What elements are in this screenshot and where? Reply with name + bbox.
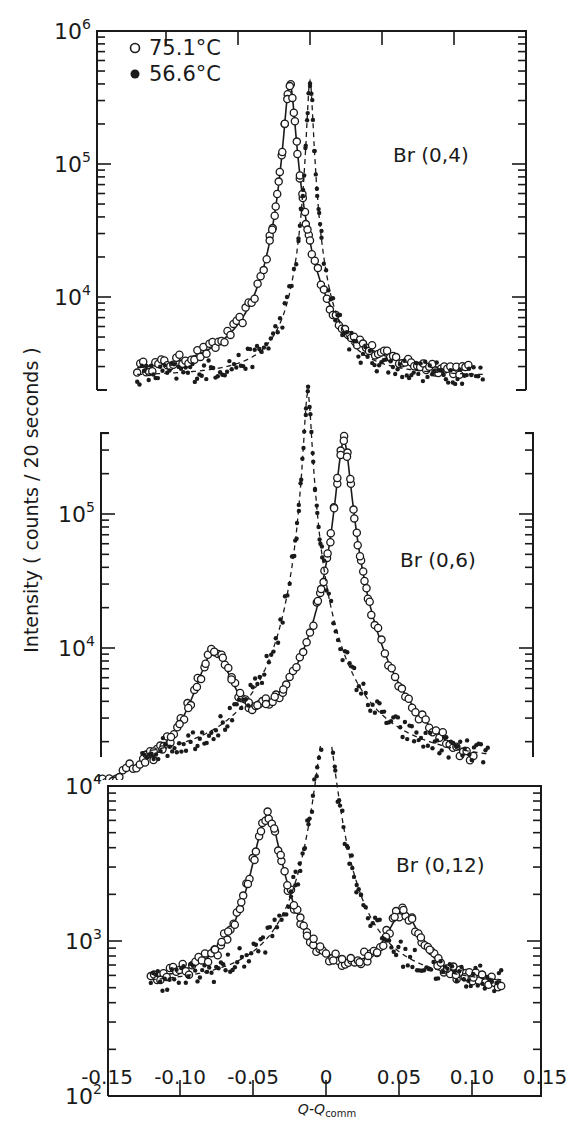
- data-point-filled: [234, 365, 238, 369]
- data-point-filled: [394, 953, 398, 957]
- data-point-open: [354, 542, 361, 549]
- data-point-filled: [326, 731, 330, 735]
- legend-label-56-6: 56.6°C: [149, 62, 221, 86]
- data-point-open: [304, 226, 311, 233]
- data-point-filled: [364, 691, 368, 695]
- data-point-filled: [359, 361, 363, 365]
- data-point-open: [266, 237, 273, 244]
- data-point-filled: [285, 295, 289, 299]
- data-point-filled: [329, 731, 333, 735]
- data-point-filled: [345, 650, 349, 654]
- data-point-filled: [324, 732, 328, 736]
- data-point-open: [280, 686, 287, 693]
- data-point-filled: [445, 967, 449, 971]
- data-point-filled: [198, 975, 202, 979]
- data-point-filled: [423, 360, 427, 364]
- data-point-filled: [310, 98, 314, 102]
- x-axis-label: Q-Qcomm: [298, 1101, 356, 1119]
- data-point-filled: [274, 636, 278, 640]
- y-tick-label: 103: [65, 926, 102, 954]
- data-point-open: [284, 882, 291, 889]
- data-point-filled: [160, 989, 164, 993]
- data-point-filled: [440, 748, 444, 752]
- data-point-filled: [465, 738, 469, 742]
- data-point-filled: [275, 925, 279, 929]
- data-point-filled: [320, 555, 324, 559]
- data-point-filled: [163, 363, 167, 367]
- data-point-filled: [260, 681, 264, 685]
- data-point-filled: [160, 369, 164, 373]
- data-point-filled: [481, 377, 485, 381]
- data-point-filled: [470, 758, 474, 762]
- data-point-open: [225, 664, 232, 671]
- data-point-filled: [319, 229, 323, 233]
- data-point-filled: [403, 720, 407, 724]
- data-point-filled: [308, 81, 312, 85]
- data-point-filled: [494, 981, 498, 985]
- data-point-open: [365, 952, 372, 959]
- data-point-filled: [340, 658, 344, 662]
- data-point-filled: [416, 372, 420, 376]
- data-point-filled: [463, 746, 467, 750]
- data-point-filled: [184, 749, 188, 753]
- data-point-filled: [388, 359, 392, 363]
- data-point-filled: [312, 149, 316, 153]
- fit-curve-75-1: [99, 441, 473, 781]
- data-point-filled: [349, 331, 353, 335]
- data-point-filled: [253, 676, 257, 680]
- data-point-filled: [181, 370, 185, 374]
- data-point-filled: [457, 969, 461, 973]
- data-point-filled: [307, 405, 311, 409]
- data-point-filled: [205, 741, 209, 745]
- data-point-filled: [306, 385, 310, 389]
- data-point-filled: [191, 964, 195, 968]
- data-point-open: [303, 639, 310, 646]
- data-point-filled: [455, 377, 459, 381]
- diffraction-chart: Intensity ( counts / 20 seconds ) 106105…: [0, 0, 587, 1130]
- data-point-open: [279, 148, 286, 155]
- data-point-filled: [421, 744, 425, 748]
- data-point-filled: [227, 359, 231, 363]
- data-point-filled: [235, 960, 239, 964]
- data-point-filled: [289, 889, 293, 893]
- data-point-filled: [333, 318, 337, 322]
- data-point-filled: [486, 746, 490, 750]
- data-point-filled: [435, 360, 439, 364]
- data-point-filled: [242, 964, 246, 968]
- data-point-filled: [298, 224, 302, 228]
- data-point-filled: [326, 288, 330, 292]
- data-point-filled: [286, 905, 290, 909]
- data-point-open: [378, 636, 385, 643]
- data-point-filled: [428, 731, 432, 735]
- data-point-filled: [221, 720, 225, 724]
- data-point-filled: [450, 964, 454, 968]
- data-point-open: [339, 956, 346, 963]
- data-point-filled: [387, 938, 391, 942]
- data-point-filled: [149, 981, 153, 985]
- data-point-filled: [366, 703, 370, 707]
- data-point-filled: [363, 345, 367, 349]
- data-point-filled: [182, 742, 186, 746]
- data-point-filled: [306, 111, 310, 115]
- data-point-filled: [163, 742, 167, 746]
- data-point-filled: [452, 970, 456, 974]
- data-point-open: [293, 664, 300, 671]
- data-point-filled: [216, 374, 220, 378]
- data-point-filled: [230, 367, 234, 371]
- data-point-filled: [156, 969, 160, 973]
- data-point-filled: [432, 369, 436, 373]
- data-point-filled: [384, 357, 388, 361]
- data-point-open: [271, 212, 278, 219]
- data-point-filled: [256, 949, 260, 953]
- data-point-filled: [271, 331, 275, 335]
- data-point-filled: [211, 366, 215, 370]
- data-point-filled: [398, 725, 402, 729]
- y-tick-label: 105: [54, 149, 91, 177]
- data-point-open: [231, 921, 238, 928]
- data-point-filled: [393, 372, 397, 376]
- data-point-filled: [341, 825, 345, 829]
- data-point-open: [202, 660, 209, 667]
- data-point-filled: [439, 368, 443, 372]
- data-point-filled: [316, 525, 320, 529]
- data-point-filled: [200, 968, 204, 972]
